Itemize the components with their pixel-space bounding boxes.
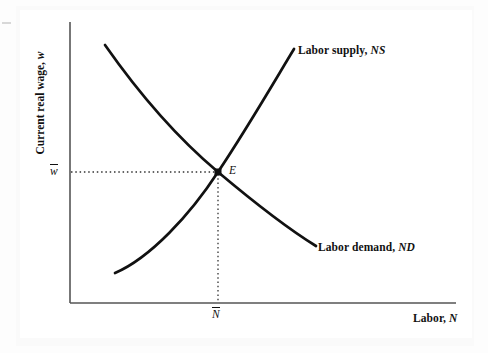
y-axis-label: Current real wage, w — [34, 37, 46, 169]
figure-root: Labor supply, NS Labor demand, ND Labor,… — [0, 0, 488, 353]
plot-canvas — [0, 0, 488, 353]
equilibrium-labor-tick-label: N — [212, 307, 220, 320]
equilibrium-wage-tick-label: w — [50, 164, 58, 177]
labor-demand-curve — [105, 45, 316, 246]
equilibrium-point-label: E — [229, 164, 236, 176]
labor-demand-curve-label: Labor demand, ND — [318, 241, 415, 253]
x-axis-label: Labor, N — [413, 312, 457, 324]
labor-supply-curve-label: Labor supply, NS — [298, 44, 385, 56]
equilibrium-point-marker — [215, 169, 222, 176]
